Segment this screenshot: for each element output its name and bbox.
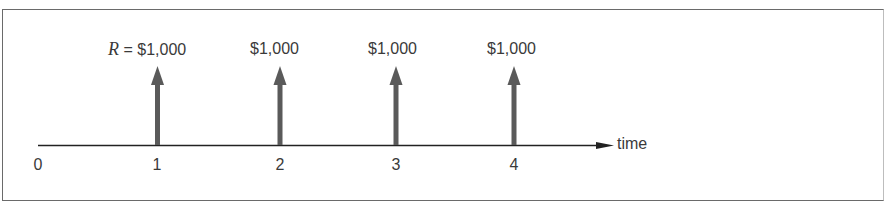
payment-label-3: $1,000	[368, 40, 417, 58]
time-axis-label: time	[617, 135, 647, 153]
tick-label-3: 3	[392, 156, 401, 174]
tick-label-4: 4	[510, 156, 519, 174]
time-axis-arrowhead-icon	[596, 142, 614, 149]
tick-label-2: 2	[276, 156, 285, 174]
timeline-diagram	[0, 0, 889, 207]
payment-arrow-3	[390, 66, 403, 145]
payment-variable: R	[108, 39, 119, 59]
payment-label-2: $1,000	[250, 40, 299, 58]
equals-sign: =	[123, 41, 132, 58]
payment-arrow-2	[274, 66, 287, 145]
tick-label-1: 1	[153, 156, 162, 174]
payment-label-1: R = $1,000	[108, 40, 186, 59]
payment-label-4: $1,000	[487, 40, 536, 58]
payment-arrow-4	[508, 66, 521, 145]
payment-amount: $1,000	[137, 41, 186, 58]
tick-label-0: 0	[34, 156, 43, 174]
payment-arrow-1	[151, 66, 164, 145]
